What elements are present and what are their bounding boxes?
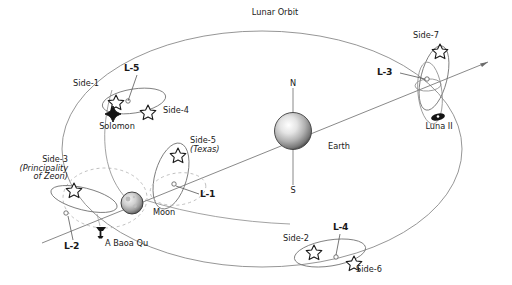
l3-point-marker	[425, 77, 429, 81]
luna-ii-label: Luna II	[416, 122, 462, 131]
axis-arrow-head	[480, 62, 488, 67]
side2-colony-star	[306, 245, 322, 260]
l2-point-marker	[64, 211, 68, 215]
north-pole-label: N	[284, 79, 302, 88]
side4-colony-star	[140, 105, 156, 120]
l4-point-marker	[334, 255, 338, 259]
side5-colony-star	[170, 148, 186, 163]
l1-label: L-1	[200, 189, 215, 199]
l2-colony-orbit-ellipse	[48, 180, 119, 218]
earth-sphere	[275, 113, 312, 150]
lunar-orbit-diagram: Lunar Orbit Earth N S Moon Luna II Solom…	[0, 0, 512, 285]
l1-dashed-orbit	[148, 169, 208, 208]
side3-sublabel-line2: of Zeon)	[33, 171, 68, 181]
side1-label: Side-1	[73, 79, 99, 88]
side7-label: Side-7	[413, 31, 439, 40]
side1-colony-star	[108, 95, 124, 110]
l4-leader-line	[336, 234, 340, 255]
side2-label: Side-2	[283, 234, 309, 243]
l5-label: L-5	[124, 63, 139, 73]
earth-sun-axis-line	[42, 62, 488, 243]
earth-label: Earth	[328, 142, 350, 151]
lunar-orbit-label: Lunar Orbit	[230, 8, 320, 17]
moon-crater	[133, 204, 137, 208]
solomon-label: Solomon	[92, 122, 142, 131]
south-pole-label: S	[284, 186, 302, 195]
moon-sphere	[121, 192, 143, 214]
side4-label: Side-4	[163, 106, 189, 115]
moon-crater	[133, 196, 135, 198]
l2-leader-line	[68, 216, 73, 240]
l1-leader-line	[176, 186, 199, 194]
side3-label-group: Side-3 (Principality of Zeon)	[6, 155, 68, 181]
l4-label: L-4	[333, 222, 348, 232]
side5-sublabel: (Texas)	[190, 144, 220, 154]
l1-point-marker	[172, 182, 176, 186]
side6-label: Side-6	[356, 265, 382, 274]
l1-colony-orbit-ellipse	[146, 139, 196, 213]
l3-label: L-3	[377, 67, 392, 77]
moon-crater	[126, 197, 131, 202]
lunar-orbit-path	[62, 31, 462, 267]
l2-label: L-2	[64, 241, 79, 251]
side5-label-group: Side-5 (Texas)	[190, 136, 220, 153]
a-baoa-qu-label: A Baoa Qu	[105, 239, 148, 248]
moon-label: Moon	[153, 208, 175, 217]
side7-colony-star	[432, 44, 448, 59]
luna2-dome	[437, 115, 440, 118]
a-baoa-qu-icon	[96, 227, 106, 238]
l5-leader-line	[128, 75, 137, 101]
